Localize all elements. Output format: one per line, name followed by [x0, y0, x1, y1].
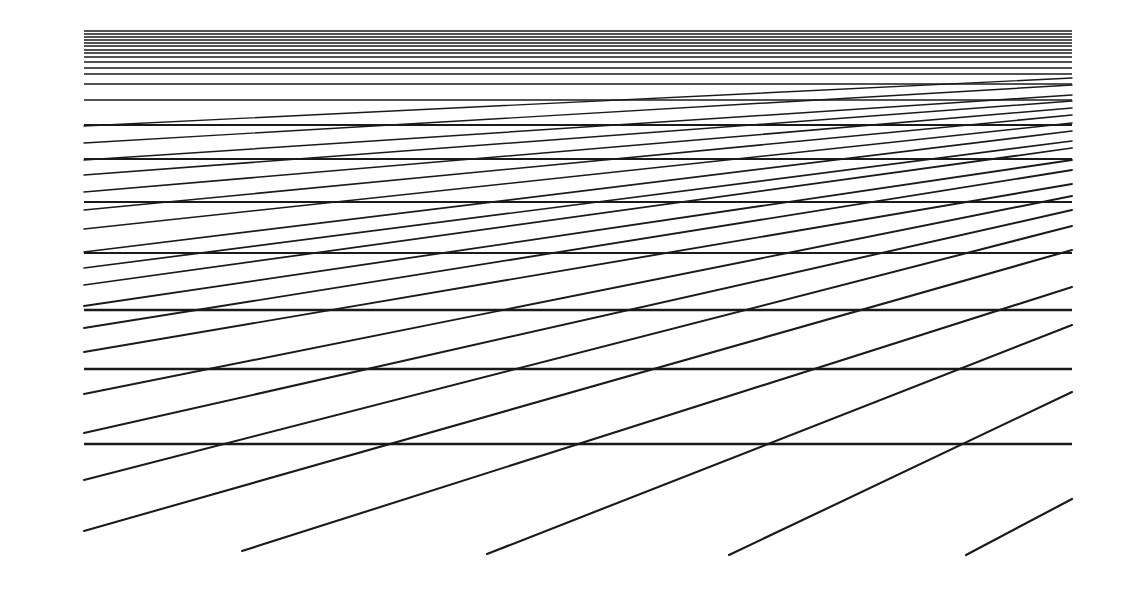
diagonal-grid-line — [84, 210, 1072, 433]
diagonal-grid-line — [242, 287, 1072, 551]
diagonal-grid-line — [84, 78, 1072, 126]
perspective-grid-drawing — [0, 0, 1121, 599]
diagonal-grid-line — [729, 392, 1072, 555]
diagonal-grid-line — [84, 184, 1072, 352]
diagonal-grid-line — [966, 499, 1072, 555]
diagonal-grid-line — [84, 85, 1072, 143]
diagonal-grid-line — [487, 325, 1072, 554]
diagonal-grid-line — [84, 250, 1072, 531]
diagonal-grid-line — [84, 196, 1072, 394]
diagonal-lines-group — [84, 78, 1072, 555]
diagonal-grid-line — [84, 160, 1072, 306]
diagonal-grid-line — [84, 115, 1072, 210]
diagonal-grid-line — [84, 101, 1072, 175]
diagonal-grid-line — [84, 123, 1072, 229]
